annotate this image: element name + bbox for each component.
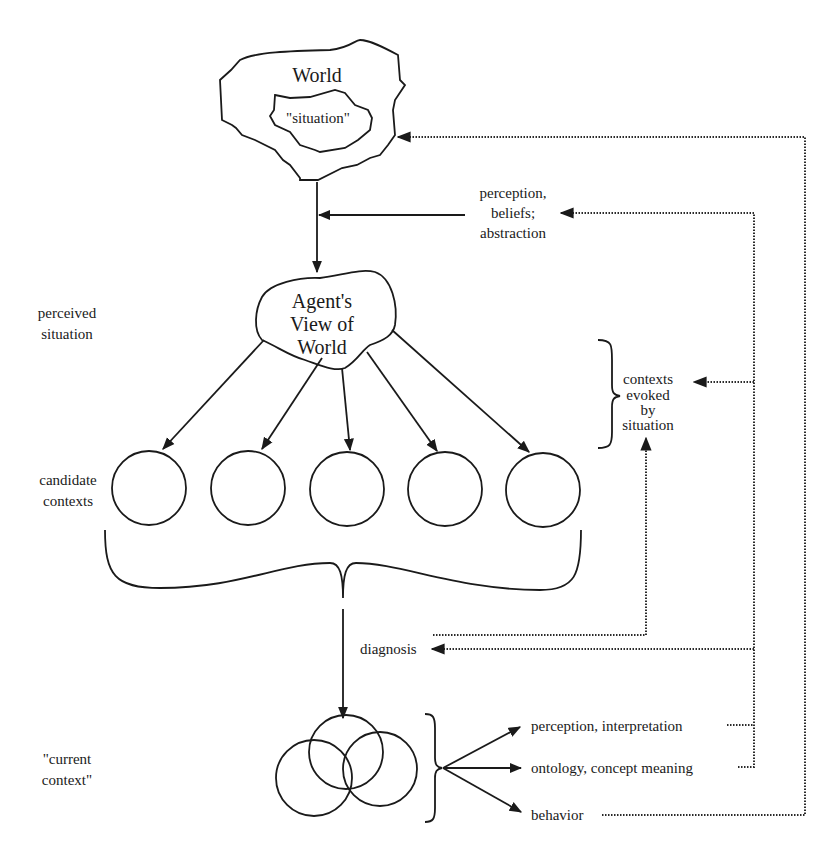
contexts-evoked-line3: by bbox=[641, 402, 657, 418]
output-arrow-behavior bbox=[443, 768, 521, 812]
current-context-circle-left bbox=[276, 740, 352, 816]
feedback-lines bbox=[398, 137, 805, 815]
agent-view-line3: World bbox=[297, 336, 347, 358]
candidate-context-5 bbox=[506, 453, 580, 527]
output-label-perception: perception, interpretation bbox=[531, 718, 683, 734]
output-label-behavior: behavior bbox=[531, 807, 583, 823]
current-context-circle-top bbox=[309, 715, 383, 789]
contexts-evoked-line2: evoked bbox=[626, 387, 670, 403]
feedback-to-world bbox=[398, 137, 805, 815]
context-diagram: World "situation" perception, beliefs; a… bbox=[0, 0, 838, 861]
agent-to-context-3-arrow bbox=[342, 368, 350, 450]
candidate-contexts-line1: candidate bbox=[39, 472, 97, 488]
candidate-contexts-line2: contexts bbox=[43, 493, 93, 509]
candidate-context-1 bbox=[112, 451, 186, 525]
agent-to-context-5-arrow bbox=[392, 330, 529, 452]
agent-to-context-4-arrow bbox=[367, 352, 437, 451]
world-node: World "situation" bbox=[220, 40, 405, 180]
agent-view-line2: View of bbox=[290, 313, 354, 335]
agent-view-line1: Agent's bbox=[292, 290, 352, 313]
current-context-line2: context" bbox=[42, 772, 92, 788]
candidate-context-2 bbox=[211, 451, 285, 525]
perception-beliefs-line2: beliefs; bbox=[491, 205, 535, 221]
candidate-contexts-group bbox=[112, 451, 580, 527]
output-label-ontology: ontology, concept meaning bbox=[531, 760, 693, 776]
contexts-evoked-line1: contexts bbox=[623, 371, 673, 387]
agent-to-context-2-arrow bbox=[262, 358, 322, 449]
perceived-situation-line2: situation bbox=[41, 326, 93, 342]
candidate-contexts-brace bbox=[105, 530, 581, 598]
output-arrow-perception bbox=[443, 727, 520, 768]
agent-to-context-1-arrow bbox=[163, 340, 264, 449]
agent-view-node: Agent's View of World bbox=[256, 271, 396, 369]
candidate-context-4 bbox=[408, 452, 482, 526]
current-context-circle-right bbox=[343, 732, 417, 806]
world-label: World bbox=[292, 64, 342, 86]
candidate-context-3 bbox=[310, 452, 384, 526]
current-context-brace bbox=[425, 714, 442, 822]
current-context-group bbox=[276, 715, 417, 816]
feedback-to-perception-beliefs bbox=[561, 213, 754, 767]
perception-beliefs-line3: abstraction bbox=[480, 225, 546, 241]
diagnosis-to-contexts-evoked bbox=[433, 438, 646, 635]
contexts-evoked-line4: situation bbox=[622, 417, 674, 433]
perception-beliefs-line1: perception, bbox=[479, 185, 546, 201]
situation-label: "situation" bbox=[286, 110, 350, 126]
perceived-situation-line1: perceived bbox=[38, 305, 97, 321]
diagnosis-label: diagnosis bbox=[360, 641, 417, 657]
contexts-evoked-brace bbox=[598, 340, 620, 448]
current-context-line1: "current bbox=[43, 751, 92, 767]
